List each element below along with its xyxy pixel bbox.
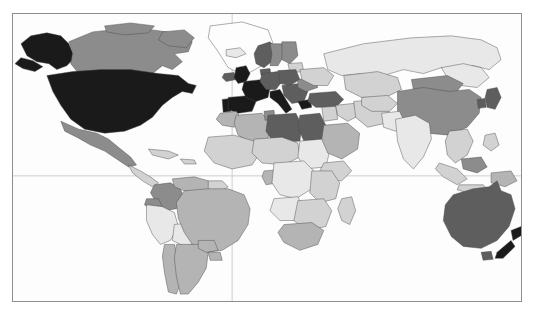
country-levant[interactable] [322,106,338,121]
map-plot-frame [12,13,522,302]
country-uruguay[interactable] [208,252,222,260]
world-choropleth-figure [0,0,534,316]
world-map-svg[interactable] [13,14,521,301]
country-south-korea[interactable] [477,98,486,108]
country-egypt[interactable] [298,113,326,141]
country-tasmania[interactable] [481,251,493,260]
